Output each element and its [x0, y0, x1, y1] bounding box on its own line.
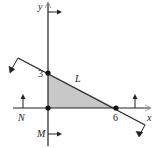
- x-intercept-label: 6: [113, 112, 118, 123]
- arrow-icon: [57, 10, 62, 15]
- shaded-region: [48, 73, 116, 108]
- arrow-icon: [136, 131, 143, 137]
- x-axis-label: x: [146, 112, 152, 123]
- n-label: N: [17, 112, 26, 123]
- point-origin: [45, 105, 50, 110]
- line-L-label: L: [74, 73, 81, 84]
- arrow-icon: [133, 94, 138, 99]
- point-y-intercept: [45, 70, 50, 75]
- diagram: y x 3 6 L N M: [0, 0, 155, 148]
- y-axis-label: y: [37, 1, 43, 12]
- arrow-icon: [9, 66, 15, 73]
- arrow-icon: [21, 94, 26, 99]
- y-intercept-label: 3: [38, 68, 43, 79]
- arrow-icon: [57, 132, 62, 137]
- point-x-intercept: [113, 105, 118, 110]
- m-label: M: [36, 128, 46, 139]
